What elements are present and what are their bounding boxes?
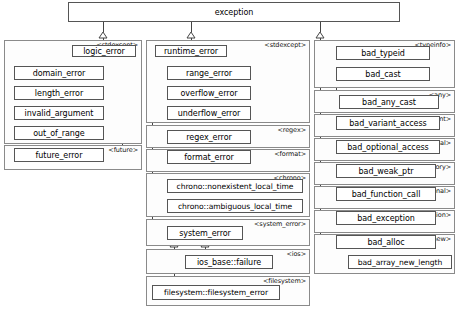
group-label-format: <format>: [274, 150, 306, 159]
class-box-out-of-range[interactable]: out_of_range: [14, 126, 104, 140]
class-box-bad-array-new-length[interactable]: bad_array_new_length: [348, 255, 452, 269]
exception-hierarchy-diagram: exception <exception> <stdexcept> <futur…: [0, 0, 459, 315]
class-box-underflow-error[interactable]: underflow_error: [167, 106, 251, 120]
class-box-future-error[interactable]: future_error: [14, 148, 104, 162]
group-label-ios: <ios>: [286, 250, 306, 259]
class-box-filesystem-filesystem-error[interactable]: filesystem::filesystem_error: [152, 285, 280, 300]
class-box-domain-error[interactable]: domain_error: [14, 66, 104, 80]
class-box-bad-alloc[interactable]: bad_alloc: [336, 235, 436, 249]
class-box-overflow-error[interactable]: overflow_error: [167, 86, 251, 100]
class-box-runtime-error[interactable]: runtime_error: [155, 45, 227, 57]
class-box-system-error[interactable]: system_error: [167, 226, 243, 240]
class-box-bad-exception[interactable]: bad_exception: [336, 211, 436, 225]
class-box-bad-weak-ptr[interactable]: bad_weak_ptr: [336, 164, 436, 178]
class-box-chrono-nonexistent-local-time[interactable]: chrono::nonexistent_local_time: [167, 179, 303, 193]
group-label-system-error: <system_error>: [254, 220, 306, 229]
class-box-chrono-ambiguous-local-time[interactable]: chrono::ambiguous_local_time: [167, 199, 303, 213]
class-box-exception[interactable]: exception: [68, 2, 400, 22]
class-box-regex-error[interactable]: regex_error: [167, 130, 251, 144]
group-label-stdexcept-mid: <stdexcept>: [264, 41, 306, 50]
class-box-length-error[interactable]: length_error: [14, 86, 104, 100]
class-box-bad-function-call[interactable]: bad_function_call: [336, 187, 436, 201]
class-box-range-error[interactable]: range_error: [167, 66, 251, 80]
class-box-ios-base-failure[interactable]: ios_base::failure: [185, 255, 273, 269]
class-box-bad-variant-access[interactable]: bad_variant_access: [336, 116, 440, 130]
class-box-format-error[interactable]: format_error: [167, 150, 251, 164]
group-label-future: <future>: [108, 146, 138, 155]
class-box-bad-cast[interactable]: bad_cast: [336, 67, 430, 81]
class-box-bad-optional-access[interactable]: bad_optional_access: [336, 140, 440, 154]
class-box-invalid-argument[interactable]: invalid_argument: [14, 106, 104, 120]
group-label-regex: <regex>: [277, 126, 306, 135]
class-box-bad-typeid[interactable]: bad_typeid: [336, 46, 430, 60]
class-box-logic-error[interactable]: logic_error: [72, 45, 136, 57]
class-box-bad-any-cast[interactable]: bad_any_cast: [339, 95, 439, 109]
